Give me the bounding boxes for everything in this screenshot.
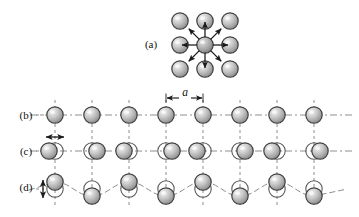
panel-a-neighbour-atom-r0c2 xyxy=(222,13,238,29)
panel-a-neighbour-atom-r2c1-highlight xyxy=(200,64,205,68)
panel-b-atom-3 xyxy=(158,107,174,123)
panel-c-atom-0-highlight xyxy=(44,146,49,150)
panel-c-atom-4 xyxy=(189,143,205,159)
panel-b-atom-5 xyxy=(232,107,248,123)
panel-b-atom-2 xyxy=(121,107,137,123)
panel-c-atom-5 xyxy=(237,143,253,159)
panel-d-atom-7-highlight xyxy=(309,191,314,195)
panel-d-atom-5-highlight xyxy=(235,191,240,195)
panel-a-neighbour-atom-r2c0 xyxy=(172,61,188,77)
panel-a-vibration-arrow-7 xyxy=(211,51,222,62)
panel-a-neighbour-atom-r1c0-highlight xyxy=(175,40,180,44)
panel-label-c: (c) xyxy=(20,145,33,158)
panel-b-atom-4 xyxy=(195,107,211,123)
transverse-wave-curve xyxy=(29,182,344,196)
panel-d-atom-6 xyxy=(269,174,285,190)
panel-d-atom-7 xyxy=(306,188,322,204)
panel-a-neighbour-atom-r0c0 xyxy=(172,13,188,29)
panel-a-neighbour-atom-r0c0-highlight xyxy=(175,16,180,20)
panel-d-atom-6-highlight xyxy=(272,177,277,181)
panel-a-vibration-arrow-1 xyxy=(211,29,222,40)
panel-d-atom-0 xyxy=(47,174,63,190)
panel-a-neighbour-atom-r1c2-highlight xyxy=(225,40,230,44)
panel-a-vibration-arrow-3 xyxy=(189,29,200,40)
panel-d-atom-4 xyxy=(195,174,211,190)
panel-d-atom-2 xyxy=(121,174,137,190)
panel-label-b: (b) xyxy=(20,109,33,122)
panel-c-atom-7 xyxy=(312,143,328,159)
panel-a-neighbour-atom-r0c2-highlight xyxy=(225,16,230,20)
lattice-constant-label: a xyxy=(182,86,188,98)
panel-d-atom-5 xyxy=(232,188,248,204)
panel-c-atom-4-highlight xyxy=(192,146,197,150)
panel-d-atom-1-highlight xyxy=(87,191,92,195)
panel-d-atom-3-highlight xyxy=(161,191,166,195)
panel-b-atom-3-highlight xyxy=(161,110,166,114)
panel-d-atom-4-highlight xyxy=(198,177,203,181)
panel-c-atom-3-highlight xyxy=(167,146,172,150)
panel-c-atom-1 xyxy=(89,143,105,159)
panel-c-atom-3 xyxy=(164,143,180,159)
atoms-layer xyxy=(41,13,328,204)
panel-a-neighbour-atom-r0c1-highlight xyxy=(200,16,205,20)
panel-d-atom-0-highlight xyxy=(50,177,55,181)
panel-label-d: (d) xyxy=(20,181,33,194)
panel-a-neighbour-atom-r2c2 xyxy=(222,61,238,77)
panel-c-atom-0 xyxy=(41,143,57,159)
panel-d-atom-2-highlight xyxy=(124,177,129,181)
panel-b-atom-0-highlight xyxy=(50,110,55,114)
panel-b-atom-1 xyxy=(84,107,100,123)
panel-b-atom-6-highlight xyxy=(272,110,277,114)
panel-b-atom-6 xyxy=(269,107,285,123)
panel-label-a: (a) xyxy=(145,38,158,51)
panel-a-neighbour-atom-r2c0-highlight xyxy=(175,64,180,68)
panel-b-atom-2-highlight xyxy=(124,110,129,114)
panel-b-atom-1-highlight xyxy=(87,110,92,114)
panel-d-atom-1 xyxy=(84,188,100,204)
panel-b-atom-4-highlight xyxy=(198,110,203,114)
panel-d-wave-path xyxy=(29,182,344,196)
panel-b-atom-5-highlight xyxy=(235,110,240,114)
panel-d-atom-3 xyxy=(158,188,174,204)
figure-canvas: a(a)(b)(c)(d) xyxy=(0,0,359,217)
panel-c-atom-6 xyxy=(264,143,280,159)
panel-c-atom-7-highlight xyxy=(315,146,320,150)
lattice-vibration-figure: a(a)(b)(c)(d) xyxy=(0,0,359,217)
panel-b-atom-7 xyxy=(306,107,322,123)
panel-c-atom-2 xyxy=(116,143,132,159)
panel-b-atom-0 xyxy=(47,107,63,123)
panel-c-atom-6-highlight xyxy=(267,146,272,150)
panel-a-center-atom-highlight xyxy=(200,40,205,44)
panel-a-vibration-arrow-5 xyxy=(189,51,200,62)
panel-c-atom-2-highlight xyxy=(119,146,124,150)
panel-c-atom-1-highlight xyxy=(92,146,97,150)
panel-b-atom-7-highlight xyxy=(309,110,314,114)
panel-a-neighbour-atom-r2c2-highlight xyxy=(225,64,230,68)
panel-c-atom-5-highlight xyxy=(240,146,245,150)
